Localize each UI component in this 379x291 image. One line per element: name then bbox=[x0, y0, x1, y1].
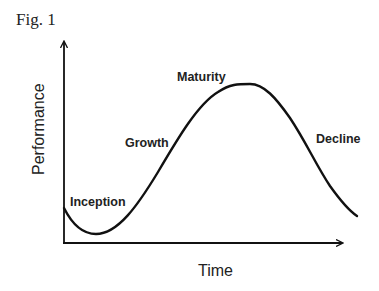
stage-label-growth: Growth bbox=[125, 136, 169, 150]
y-axis-label: Performance bbox=[30, 83, 47, 175]
stage-label-decline: Decline bbox=[316, 132, 361, 146]
stage-label-inception: Inception bbox=[70, 195, 126, 209]
lifecycle-diagram: Inception Growth Maturity Decline Perfor… bbox=[0, 0, 379, 291]
x-axis-label: Time bbox=[198, 262, 233, 279]
lifecycle-curve bbox=[64, 84, 357, 234]
stage-label-maturity: Maturity bbox=[177, 70, 226, 84]
